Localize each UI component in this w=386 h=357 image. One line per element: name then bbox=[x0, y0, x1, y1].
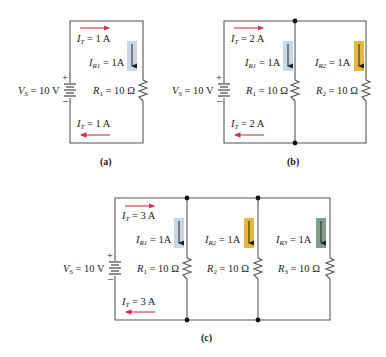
resistor-r1-icon bbox=[139, 80, 147, 101]
branch1-current-label: IR1 = 1A bbox=[88, 57, 125, 70]
plus-sign: + bbox=[216, 72, 222, 83]
total-current-bottom-label: IT = 2 A bbox=[230, 118, 265, 131]
branch1-current-label: IR1 = 1A bbox=[135, 234, 172, 247]
branch1-current-label: IR1 = 1A bbox=[244, 57, 281, 70]
resistor-r3-label: R3 = 10 Ω bbox=[277, 263, 320, 276]
branch2-current-label: IR2 = 1A bbox=[204, 234, 241, 247]
caption-c: (c) bbox=[201, 332, 212, 344]
resistor-r3-icon bbox=[326, 258, 334, 279]
node-dot bbox=[293, 141, 298, 146]
total-current-top-label: IT = 3 A bbox=[121, 210, 156, 223]
node-dot bbox=[293, 19, 298, 24]
circuit-a: + – VS = 10 V IT = 1 A IR1 = 1A R1 = 10 … bbox=[18, 21, 147, 168]
total-current-top-label: IT = 1 A bbox=[76, 33, 111, 46]
plus-sign: + bbox=[107, 250, 113, 261]
branch3-current-label: IR3 = 1A bbox=[275, 234, 312, 247]
resistor-r2-label: R2 = 10 Ω bbox=[315, 85, 358, 98]
circuit-b: + – VS = 10 V IT = 2 A IR1 = 1A R1 = 10 … bbox=[172, 19, 370, 168]
caption-a: (a) bbox=[100, 156, 112, 168]
node-dot bbox=[256, 318, 261, 323]
resistor-r2-icon bbox=[362, 80, 370, 101]
resistor-r1-icon bbox=[183, 258, 191, 279]
node-dot bbox=[256, 196, 261, 201]
node-dot bbox=[185, 318, 190, 323]
total-current-bottom-label: IT = 3 A bbox=[121, 296, 156, 309]
resistor-r1-icon bbox=[291, 80, 299, 101]
circuit-figure: + – VS = 10 V IT = 1 A IR1 = 1A R1 = 10 … bbox=[0, 0, 386, 357]
minus-sign: – bbox=[62, 95, 69, 106]
source-voltage-label: VS = 10 V bbox=[172, 85, 214, 98]
source-voltage-label: VS = 10 V bbox=[63, 263, 105, 276]
resistor-r1-label: R1 = 10 Ω bbox=[136, 263, 179, 276]
caption-b: (b) bbox=[287, 156, 299, 168]
source-voltage-label: VS = 10 V bbox=[18, 85, 60, 98]
resistor-r1-label: R1 = 10 Ω bbox=[92, 85, 135, 98]
total-current-bottom-label: IT = 1 A bbox=[76, 118, 111, 131]
minus-sign: – bbox=[216, 95, 223, 106]
node-dot bbox=[185, 196, 190, 201]
circuit-c: + – VS = 10 V IT = 3 A IR1 = 1A R1 = 10 … bbox=[63, 196, 334, 344]
minus-sign: – bbox=[107, 273, 114, 284]
plus-sign: + bbox=[62, 72, 68, 83]
total-current-top-label: IT = 2 A bbox=[230, 33, 265, 46]
resistor-r1-label: R1 = 10 Ω bbox=[245, 85, 288, 98]
resistor-r2-label: R2 = 10 Ω bbox=[206, 263, 249, 276]
resistor-r2-icon bbox=[254, 258, 262, 279]
branch2-current-label: IR2 = 1A bbox=[314, 57, 351, 70]
